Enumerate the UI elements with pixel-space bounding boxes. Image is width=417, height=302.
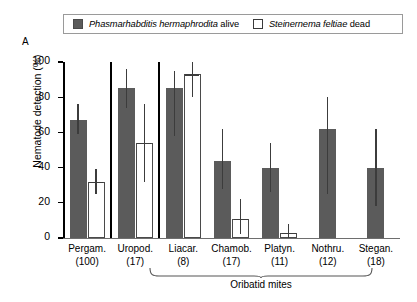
- legend-swatch-filled-icon: [73, 19, 83, 29]
- y-tick: 100: [58, 61, 63, 62]
- group-divider: [110, 62, 112, 238]
- y-axis-title: Nematode detection (%): [31, 21, 43, 201]
- error-bar-cap: [185, 74, 199, 75]
- legend-label-dead: Steinernema feltiae dead: [269, 19, 370, 29]
- legend-species-dead: Steinernema feltiae: [269, 19, 347, 29]
- bar-pergam-filled: [70, 120, 87, 238]
- error-bar: [270, 143, 271, 192]
- error-bar: [77, 104, 78, 134]
- error-bar-cap: [137, 143, 151, 144]
- legend-swatch-open-icon: [253, 19, 263, 29]
- x-label-group: Stegan.(18): [346, 243, 406, 268]
- figure-panel: Phasmarhabditis hermaphrodita alive Stei…: [0, 0, 417, 302]
- bar-uropod-filled: [118, 88, 135, 238]
- error-bar: [192, 62, 193, 97]
- y-tick: 80: [58, 97, 63, 98]
- y-tick: 0: [58, 237, 63, 238]
- y-tick: 20: [58, 202, 63, 203]
- legend-species-alive: Phasmarhabditis hermaphrodita: [89, 19, 218, 29]
- y-tick-label: 100: [32, 54, 50, 66]
- error-bar-cap: [282, 233, 296, 234]
- y-tick: 60: [58, 132, 63, 133]
- chart-legend: Phasmarhabditis hermaphrodita alive Stei…: [63, 14, 403, 34]
- y-tick-label: 80: [38, 90, 50, 102]
- error-bar: [288, 224, 289, 238]
- y-tick-label: 40: [38, 160, 50, 172]
- y-tick-label: 20: [38, 195, 50, 207]
- error-bar-cap: [89, 182, 103, 183]
- y-axis-line: [63, 62, 65, 238]
- error-bar: [222, 129, 223, 189]
- error-bar: [240, 199, 241, 234]
- panel-letter: A: [22, 36, 29, 47]
- legend-item-dead: Steinernema feltiae dead: [253, 19, 370, 29]
- legend-state-alive: alive: [218, 19, 239, 29]
- bar-liacar-open: [184, 74, 201, 238]
- error-bar: [375, 129, 376, 206]
- error-bar-cap: [234, 219, 248, 220]
- x-axis-line: [63, 238, 400, 239]
- y-tick-label: 60: [38, 125, 50, 137]
- bracket-label: Oribatid mites: [149, 279, 373, 290]
- y-tick-label: 0: [44, 230, 50, 242]
- legend-item-alive: Phasmarhabditis hermaphrodita alive: [73, 19, 239, 29]
- error-bar: [126, 69, 127, 108]
- plot-area: 020406080100: [63, 62, 400, 238]
- legend-state-dead: dead: [347, 19, 370, 29]
- x-label-name: Stegan.: [346, 243, 406, 256]
- error-bar: [327, 97, 328, 194]
- legend-label-alive: Phasmarhabditis hermaphrodita alive: [89, 19, 239, 29]
- y-tick: 40: [58, 167, 63, 168]
- error-bar: [174, 71, 175, 136]
- oribatid-bracket-icon: [149, 267, 373, 278]
- group-divider: [158, 62, 160, 238]
